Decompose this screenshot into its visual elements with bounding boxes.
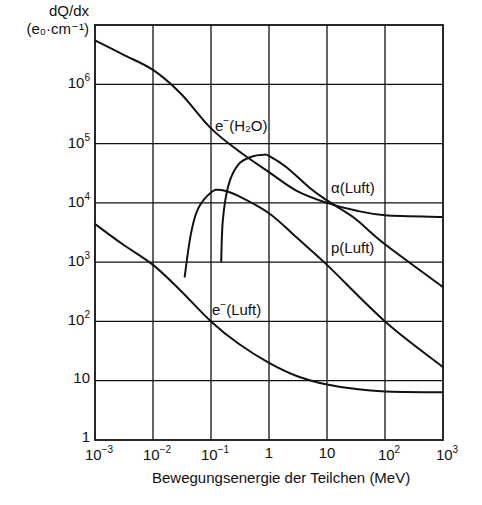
- series-label-p-luft: p(Luft): [331, 240, 374, 255]
- x-tick-label: 10−1: [201, 444, 229, 463]
- y-tick-label: 10: [73, 369, 90, 386]
- grid: [95, 25, 443, 440]
- x-tick-label: 102: [378, 444, 400, 463]
- x-tick-label: 1: [265, 444, 273, 461]
- y-tick-label: 1: [82, 428, 90, 445]
- y-axis-label-line1: dQ/dx: [26, 2, 89, 20]
- x-tick-label: 10: [319, 444, 336, 461]
- curve-1: [221, 154, 443, 287]
- x-tick-label: 10−3: [85, 444, 113, 463]
- series-label-e-h2o: e−(H₂O): [215, 116, 268, 133]
- x-tick-label: 103: [436, 444, 458, 463]
- y-axis-label: dQ/dx (e₀·cm⁻¹): [26, 2, 89, 38]
- series-label-e-luft: e−(Luft): [212, 300, 261, 317]
- y-tick-label: 106: [68, 72, 90, 91]
- series-label-alpha-luft: α(Luft): [331, 180, 375, 195]
- y-axis-label-line2: (e₀·cm⁻¹): [26, 20, 89, 38]
- x-axis-label: Bewegungsenergie der Teilchen (MeV): [152, 469, 410, 486]
- y-tick-label: 104: [68, 191, 90, 210]
- y-tick-label: 102: [68, 309, 90, 328]
- y-tick-label: 103: [68, 250, 90, 269]
- label-rest: (Luft): [226, 301, 261, 318]
- label-rest: (H₂O): [229, 117, 267, 134]
- x-tick-label: 10−2: [143, 444, 171, 463]
- y-tick-label: 105: [68, 132, 90, 151]
